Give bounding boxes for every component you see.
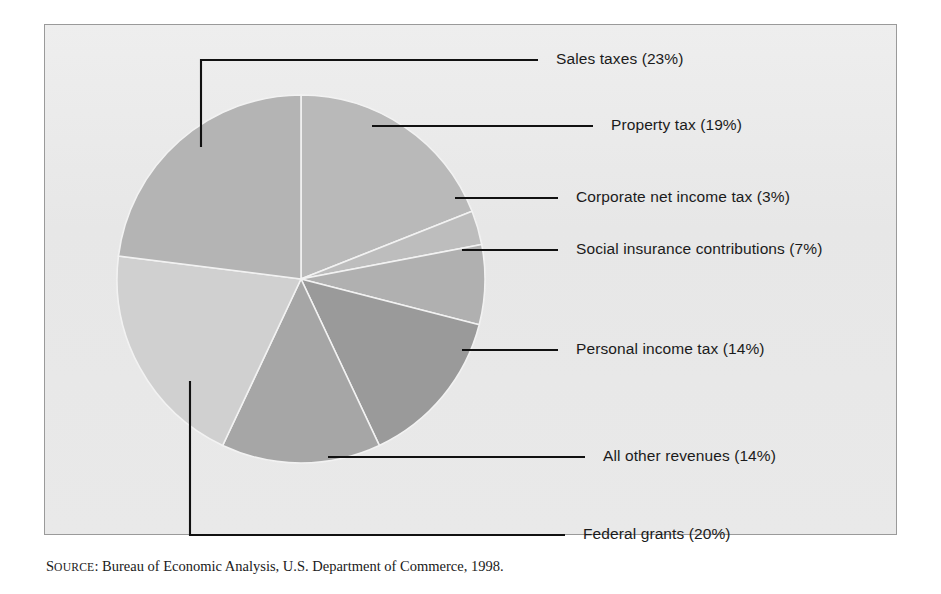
label-social-insurance-contributions: Social insurance contributions (7%) [576,240,822,258]
label-property-tax: Property tax (19%) [611,116,742,134]
source-text: Bureau of Economic Analysis, U.S. Depart… [102,558,503,574]
source-separator: : [94,558,102,574]
source-note: SOURCE: Bureau of Economic Analysis, U.S… [46,558,504,575]
label-corporate-net-income-tax: Corporate net income tax (3%) [576,188,790,206]
label-sales-taxes: Sales taxes (23%) [556,50,683,68]
figure-pie-chart-state-local-revenues: Sales taxes (23%) Property tax (19%) Cor… [0,0,941,594]
source-prefix-rest: OURCE [54,561,94,574]
pie-slice-sales-taxes [118,95,301,279]
label-personal-income-tax: Personal income tax (14%) [576,340,765,358]
source-prefix-initial: S [46,558,54,574]
label-all-other-revenues: All other revenues (14%) [603,447,776,465]
label-federal-grants: Federal grants (20%) [583,525,731,543]
pie-slices [117,95,485,463]
pie-chart-svg [0,0,941,594]
